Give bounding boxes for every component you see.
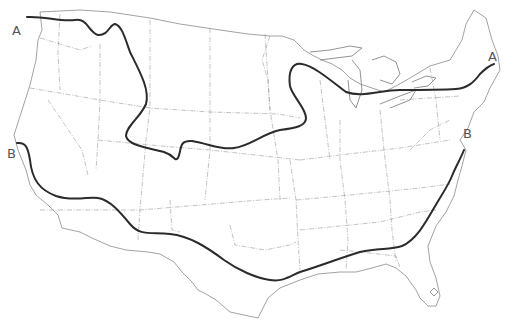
us-map xyxy=(0,0,508,332)
line-a xyxy=(27,17,494,159)
lake-okeechobee xyxy=(430,288,438,296)
line-b xyxy=(17,143,464,281)
label-a-west: A xyxy=(12,24,21,37)
state-borders xyxy=(30,14,460,270)
great-lakes xyxy=(310,46,436,108)
us-outline xyxy=(14,10,500,318)
label-b-west: B xyxy=(7,147,16,160)
label-b-east: B xyxy=(463,127,472,140)
label-a-east: A xyxy=(488,50,497,63)
